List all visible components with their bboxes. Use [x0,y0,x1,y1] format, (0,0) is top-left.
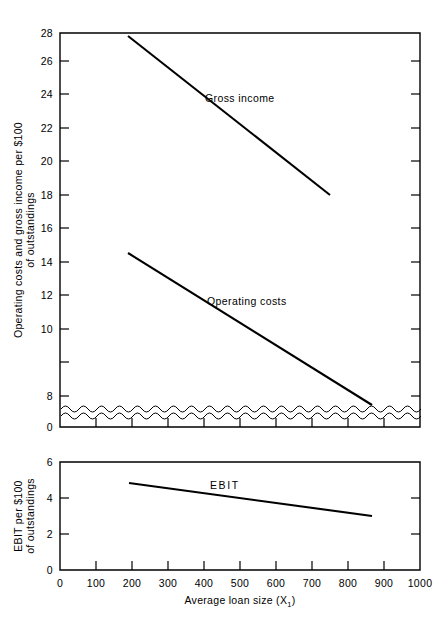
series-line-operating-costs [128,253,372,405]
series-line-ebit [129,483,372,516]
lower-y-tick-labels: 6 4 2 0 [47,456,53,576]
lower-ytick-4: 4 [47,492,53,504]
upper-y-ticks-right [411,61,420,396]
lower-ytick-2: 2 [47,528,53,540]
figure-container: 28 26 24 22 20 18 16 14 12 10 8 0 Operat… [0,0,448,625]
series-label-ebit: EBIT [210,479,240,491]
xtick-200: 200 [123,577,141,589]
lower-y-axis-title-line2: of outstandings [24,478,36,554]
upper-y-axis-title-line2: of outstandings [24,192,36,268]
xtick-700: 700 [303,577,321,589]
upper-y-ticks [60,61,69,396]
upper-y-axis-title: Operating costs and gross income per $10… [12,122,36,338]
xtick-500: 500 [231,577,249,589]
upper-ytick-12: 12 [41,289,53,301]
x-axis-title-tail: ) [292,594,296,606]
upper-ytick-8: 8 [47,390,53,402]
upper-ytick-28: 28 [41,27,53,39]
series-label-gross-income: Gross income [205,92,275,104]
upper-ytick-14: 14 [41,256,53,268]
lower-x-tick-labels: 0 100 200 300 400 500 600 700 800 900 10… [57,577,432,589]
xtick-0: 0 [57,577,63,589]
upper-ytick-24: 24 [41,88,53,100]
xtick-800: 800 [339,577,357,589]
chart-svg: 28 26 24 22 20 18 16 14 12 10 8 0 Operat… [0,0,448,625]
xtick-100: 100 [87,577,105,589]
x-axis-title-main: Average loan size (X [185,594,288,606]
upper-ytick-0: 0 [47,421,53,433]
xtick-1000: 1000 [408,577,433,589]
lower-x-ticks [96,561,384,570]
upper-x-ticks [96,418,384,427]
y-axis-break-wave [61,406,421,419]
lower-y-ticks-right [411,498,420,534]
series-line-gross-income [128,36,330,195]
upper-ytick-10: 10 [41,323,53,335]
lower-ytick-0: 0 [47,564,53,576]
lower-y-ticks [60,498,69,534]
lower-y-axis-title-line1: EBIT per $100 [12,480,24,551]
lower-y-axis-title: EBIT per $100 of outstandings [12,478,36,554]
xtick-400: 400 [195,577,213,589]
lower-ytick-6: 6 [47,456,53,468]
upper-panel: 28 26 24 22 20 18 16 14 12 10 8 0 Operat… [12,27,421,433]
upper-ytick-16: 16 [41,222,53,234]
x-axis-title: Average loan size (X1) [185,594,296,609]
xtick-600: 600 [267,577,285,589]
xtick-300: 300 [159,577,177,589]
upper-ytick-22: 22 [41,122,53,134]
series-label-operating-costs: Operating costs [207,295,287,307]
lower-panel: 6 4 2 0 EBIT per $100 of outstandings 0 … [12,456,432,609]
upper-y-axis-title-line1: Operating costs and gross income per $10… [12,122,24,338]
upper-ytick-18: 18 [41,189,53,201]
upper-ytick-26: 26 [41,55,53,67]
xtick-900: 900 [375,577,393,589]
upper-y-tick-labels: 28 26 24 22 20 18 16 14 12 10 8 0 [41,27,53,433]
upper-ytick-20: 20 [41,155,53,167]
